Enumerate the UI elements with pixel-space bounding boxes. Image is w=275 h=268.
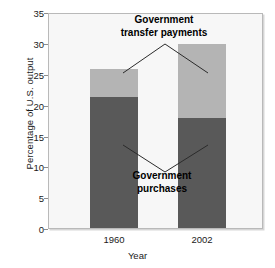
y-tick-label-20: 20 — [18, 101, 44, 112]
annotation-transfer-line2: transfer payments — [88, 27, 240, 40]
y-tick-label-10: 10 — [18, 162, 44, 173]
bar-2002-transfer-payments — [178, 44, 226, 118]
y-tick-label-15: 15 — [18, 132, 44, 143]
y-tick-label-5: 5 — [18, 193, 44, 204]
y-tick-mark-0 — [44, 229, 48, 230]
y-tick-mark-35 — [44, 13, 48, 14]
y-tick-mark-15 — [44, 137, 48, 138]
y-tick-mark-5 — [44, 198, 48, 199]
y-tick-label-35: 35 — [18, 8, 44, 19]
annotation-purchases-line2: purchases — [86, 183, 238, 196]
annotation-transfer-line1: Government — [88, 14, 240, 27]
y-tick-mark-10 — [44, 167, 48, 168]
bar-1960-transfer-payments — [90, 69, 138, 97]
annotation-purchases: Government purchases — [86, 170, 238, 195]
bar-1960-purchases — [90, 97, 138, 228]
y-axis-title: Percentage of U.S. output — [24, 29, 35, 199]
y-tick-label-30: 30 — [18, 39, 44, 50]
x-axis-title: Year — [0, 250, 275, 261]
y-tick-label-0: 0 — [18, 224, 44, 235]
annotation-transfer-payments: Government transfer payments — [88, 14, 240, 39]
y-tick-mark-20 — [44, 106, 48, 107]
x-tick-label-1960: 1960 — [79, 234, 149, 245]
annotation-purchases-line1: Government — [86, 170, 238, 183]
x-tick-label-2002: 2002 — [167, 234, 237, 245]
plot-area — [48, 13, 263, 229]
y-tick-mark-30 — [44, 44, 48, 45]
y-tick-mark-25 — [44, 75, 48, 76]
chart-figure: Percentage of U.S. output 35 30 25 20 15… — [0, 0, 275, 268]
y-tick-label-25: 25 — [18, 70, 44, 81]
